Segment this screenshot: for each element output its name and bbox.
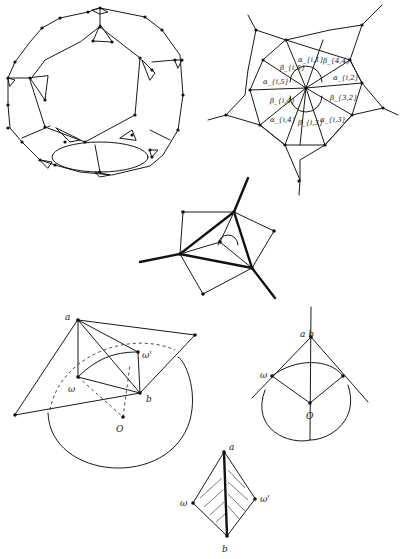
omega-prime-label-kite: ω' — [260, 494, 270, 504]
a-label-kite: a — [229, 442, 234, 452]
omega-label: ω — [68, 384, 76, 394]
alpha-3-label: α_{i,3} — [320, 116, 346, 124]
a-label: a — [65, 312, 70, 322]
pentagon-angles-figure: α_{i,1} α_{i,2} α_{i,3} α_{i,4} α_{i,5} … — [208, 5, 398, 195]
o-label-right: O — [306, 411, 314, 421]
omega-label-kite: ω — [180, 498, 188, 508]
beta-5-label: β_{i,5} — [279, 64, 305, 72]
vertex-configuration-figure — [140, 178, 276, 298]
beta-32-label: β_{3,2} — [329, 94, 358, 102]
truncated-polyhedron-figure — [6, 6, 184, 177]
b-label: b — [146, 394, 152, 404]
alpha-2-label: α_{i,2} — [333, 74, 359, 82]
hatched-kite-figure: a b ω ω' — [180, 442, 270, 554]
alpha-1-label: α_{i,1} — [298, 56, 324, 64]
beta-3-label: β_{i,3} — [297, 119, 323, 127]
omega-prime-label: ω' — [142, 350, 152, 360]
alpha-5-label: α_{i,5} — [263, 78, 289, 86]
o-label: O — [116, 424, 124, 434]
right-circle-figure: a b ω O — [252, 307, 368, 441]
beta-44-label: β_{4,4} — [322, 57, 351, 65]
b-label-kite: b — [222, 544, 228, 554]
beta-4-label: β_{i,4} — [269, 97, 295, 105]
omega-label-right: ω — [260, 370, 268, 380]
circle-omega-figure: a b ω ω' O — [13, 312, 197, 468]
alpha-4-label: α_{i,4} — [270, 116, 296, 124]
diagram-sheet: α_{i,1} α_{i,2} α_{i,3} α_{i,4} α_{i,5} … — [0, 0, 406, 559]
